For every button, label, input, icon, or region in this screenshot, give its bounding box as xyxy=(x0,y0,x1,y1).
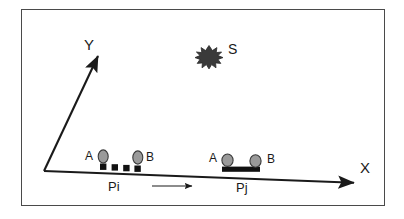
pj-node-a xyxy=(222,154,233,166)
y-axis-label: Y xyxy=(84,37,94,52)
pj-node-a-label: A xyxy=(209,152,217,164)
x-axis-label: X xyxy=(360,160,370,175)
platform-pi-label: Pi xyxy=(108,180,120,193)
pi-segment xyxy=(100,164,106,170)
pi-node-a-label: A xyxy=(85,150,93,162)
source-label: S xyxy=(228,42,237,56)
pi-segment xyxy=(134,166,140,172)
pi-node-a xyxy=(98,150,108,163)
diagram-stage: Y X S A B Pi A B Pj xyxy=(0,0,404,219)
platform-pj-label: Pj xyxy=(236,181,248,194)
pi-segment xyxy=(123,165,129,171)
x-axis-line xyxy=(44,171,354,183)
pi-node-b xyxy=(133,151,143,164)
pi-segment xyxy=(112,164,118,170)
pj-node-b-label: B xyxy=(267,153,275,165)
pj-node-b xyxy=(250,155,261,167)
diagram-canvas xyxy=(0,0,404,219)
pi-node-b-label: B xyxy=(146,151,154,163)
platform-pi-base xyxy=(100,164,141,172)
burst-star-icon xyxy=(195,46,223,69)
